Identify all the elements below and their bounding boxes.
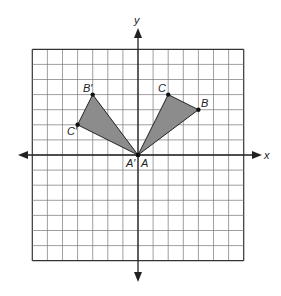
x-axis-label: x [263,149,270,161]
y-axis-label: y [133,14,141,26]
label-c-prime: C′ [67,125,78,137]
label-b-prime: B′ [83,82,93,94]
label-a: A [140,157,148,169]
label-a-prime: A′ [125,157,136,169]
label-b: B [201,97,208,109]
coordinate-plane: x y A A′ B B′ C C′ [0,0,281,296]
label-c: C [158,82,166,94]
